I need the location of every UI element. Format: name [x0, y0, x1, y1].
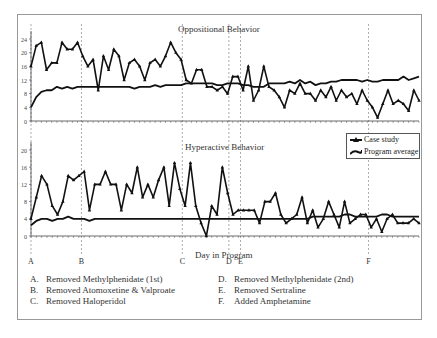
svg-text:16: 16	[21, 165, 27, 171]
svg-text:20: 20	[21, 148, 27, 154]
note-text: Removed Haloperidol	[46, 296, 126, 306]
case-study-swatch-icon	[350, 137, 362, 143]
marker-note-a: A.Removed Methylphenidate (1st)	[30, 274, 162, 284]
svg-text:8: 8	[24, 91, 27, 97]
svg-text:0: 0	[24, 119, 27, 125]
svg-text:8: 8	[24, 199, 27, 205]
legend-item-case-study: Case study	[347, 134, 419, 146]
svg-text:4: 4	[24, 216, 27, 222]
marker-note-c: C.Removed Haloperidol	[30, 296, 126, 306]
marker-note-f: F.Added Amphetamine	[218, 296, 311, 306]
program-average-line	[31, 215, 419, 226]
marker-note-d: D.Removed Methylphenidate (2nd)	[218, 274, 353, 284]
note-text: Removed Sertraline	[234, 285, 306, 295]
marker-note-b: B.Removed Atomoxetine & Valproate	[30, 285, 175, 295]
legend: Case study Program average	[346, 133, 420, 159]
marker-label: F	[366, 257, 371, 266]
legend-item-program-average: Program average	[347, 146, 419, 158]
x-axis-label: Day in Program	[195, 250, 253, 260]
case-study-line	[31, 163, 419, 236]
marker-label: C	[180, 257, 185, 266]
note-text: Removed Atomoxetine & Valproate	[46, 285, 175, 295]
note-key: C.	[30, 296, 46, 306]
svg-text:4: 4	[24, 105, 27, 111]
note-key: A.	[30, 274, 46, 284]
svg-text:12: 12	[21, 78, 27, 84]
bottom-chart-title: Hyperactive Behavior	[185, 142, 264, 152]
marker-label: B	[79, 257, 84, 266]
legend-label: Case study	[364, 134, 399, 146]
svg-text:20: 20	[21, 50, 27, 56]
marker-label: A	[28, 257, 34, 266]
svg-text:0: 0	[24, 234, 27, 240]
note-key: E.	[218, 285, 234, 295]
note-key: B.	[30, 285, 46, 295]
note-text: Removed Methylphenidate (2nd)	[234, 274, 353, 284]
top-chart-title: Oppositional Behavior	[178, 24, 260, 34]
program-average-swatch-icon	[350, 149, 362, 155]
svg-text:16: 16	[21, 64, 27, 70]
oppositional-chart: 04812162024	[21, 31, 421, 125]
note-text: Added Amphetamine	[234, 296, 311, 306]
note-key: F.	[218, 296, 234, 306]
svg-text:12: 12	[21, 182, 27, 188]
marker-note-e: E.Removed Sertraline	[218, 285, 306, 295]
note-text: Removed Methylphenidate (1st)	[46, 274, 162, 284]
note-key: D.	[218, 274, 234, 284]
svg-text:24: 24	[21, 37, 27, 43]
case-study-line	[31, 42, 419, 117]
legend-label: Program average	[364, 146, 418, 158]
